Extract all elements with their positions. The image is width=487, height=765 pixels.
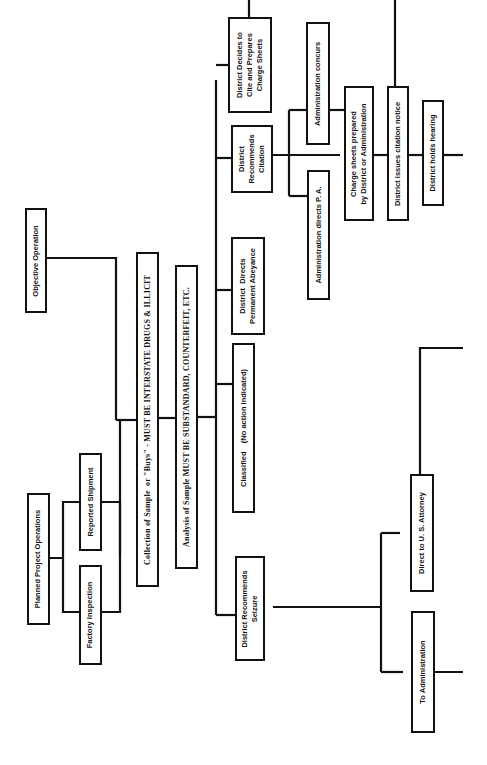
to-administration-box: To Administration xyxy=(411,611,435,733)
collection-of-sample-box: Collection of Sample or "Buys" - MUST BE… xyxy=(136,252,159,587)
planned-project-operations-label: Planned Project Operations xyxy=(34,510,44,608)
classified-box: Classified (No action indicated) xyxy=(232,343,255,513)
to-administration-label: To Administration xyxy=(418,640,428,703)
administration-directs-pa-label: Administration directs P. A. xyxy=(314,186,324,283)
direct-to-us-attorney-box: Direct to U. S. Attorney xyxy=(410,474,434,592)
objective-operation-box: Objective Operation xyxy=(25,208,47,313)
flowchart-diagram: Objective Operation Planned Project Oper… xyxy=(0,0,487,765)
district-decides-to-cite-box: District Decides to Cite and Prepares Ch… xyxy=(228,17,272,113)
reported-shipment-box: Reported Shipment xyxy=(79,453,102,551)
administration-concurs-label: Administration concurs xyxy=(313,41,323,125)
district-issues-citation-box: District issues citation notice xyxy=(387,86,409,221)
charge-sheets-prepared-label: Charge sheets prepared by District or Ad… xyxy=(349,103,369,204)
collection-of-sample-label: Collection of Sample or "Buys" - MUST BE… xyxy=(143,275,153,565)
district-holds-hearing-box: District holds hearing xyxy=(422,100,444,206)
classified-label: Classified (No action indicated) xyxy=(239,369,249,487)
district-recommends-seizure-label: District Recommends Seizure xyxy=(240,570,260,647)
administration-concurs-box: Administration concurs xyxy=(306,22,330,145)
reported-shipment-label: Reported Shipment xyxy=(86,467,96,536)
district-recommends-citation-label: District Recommends Citation xyxy=(237,134,267,183)
district-issues-citation-label: District issues citation notice xyxy=(393,101,403,205)
district-holds-hearing-label: District holds hearing xyxy=(428,114,438,191)
district-directs-abeyance-box: District Directs Permanent Abeyance xyxy=(231,237,265,335)
factory-inspection-label: Factory Inspection xyxy=(86,582,96,649)
district-recommends-citation-box: District Recommends Citation xyxy=(231,125,273,193)
analysis-of-sample-box: Analysis of Sample MUST BE SUBSTANDARD, … xyxy=(175,265,198,569)
district-directs-abeyance-label: District Directs Permanent Abeyance xyxy=(238,248,258,324)
district-recommends-seizure-box: District Recommends Seizure xyxy=(235,556,265,661)
factory-inspection-box: Factory Inspection xyxy=(79,565,102,665)
administration-directs-pa-box: Administration directs P. A. xyxy=(307,170,330,300)
direct-to-us-attorney-label: Direct to U. S. Attorney xyxy=(417,492,427,574)
objective-operation-label: Objective Operation xyxy=(31,225,41,296)
district-decides-to-cite-label: District Decides to Cite and Prepares Ch… xyxy=(235,32,265,98)
charge-sheets-prepared-box: Charge sheets prepared by District or Ad… xyxy=(344,86,374,221)
planned-project-operations-box: Planned Project Operations xyxy=(27,493,50,625)
analysis-of-sample-label: Analysis of Sample MUST BE SUBSTANDARD, … xyxy=(182,287,192,547)
